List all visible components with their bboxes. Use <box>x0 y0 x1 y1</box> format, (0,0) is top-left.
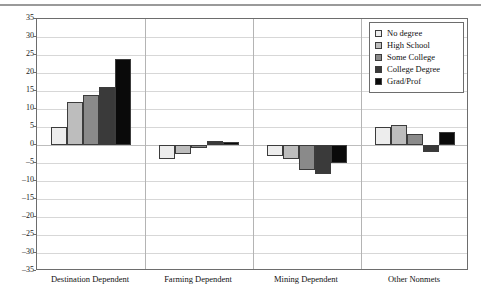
y-axis-tick-label: –25 <box>4 230 34 238</box>
legend-item-label: High School <box>387 40 430 50</box>
y-axis-tick-label: 15 <box>4 86 34 94</box>
bar <box>207 141 223 145</box>
legend-swatch-icon <box>375 42 382 49</box>
bar <box>191 145 207 148</box>
y-axis: 35302520151050–5–10–15–20–25–30–35 <box>0 18 34 270</box>
legend-item[interactable]: Some College <box>375 51 458 63</box>
legend-swatch-icon <box>375 54 382 61</box>
group-separator <box>145 19 146 269</box>
y-axis-tick-label: 35 <box>4 14 34 22</box>
bar <box>99 87 115 145</box>
bar <box>299 145 315 170</box>
bar <box>67 102 83 145</box>
legend-item-label: Some College <box>387 52 435 62</box>
y-axis-tick-mark <box>33 270 36 271</box>
bar <box>175 145 191 154</box>
legend-item-label: No degree <box>387 28 422 38</box>
gridline <box>37 181 467 182</box>
gridline <box>37 235 467 236</box>
legend-item[interactable]: High School <box>375 39 458 51</box>
bar <box>375 127 391 145</box>
bar <box>51 127 67 145</box>
legend-item[interactable]: No degree <box>375 27 458 39</box>
group-separator <box>253 19 254 269</box>
gridline <box>37 217 467 218</box>
bar <box>423 145 439 152</box>
x-axis-category-label: Farming Dependent <box>144 274 252 285</box>
legend-swatch-icon <box>375 66 382 73</box>
x-axis-category-label: Other Nonmets <box>360 274 468 285</box>
zero-line <box>37 145 467 146</box>
bar <box>267 145 283 156</box>
gridline <box>37 253 467 254</box>
bar <box>115 59 131 145</box>
legend-swatch-icon <box>375 78 382 85</box>
group-separator <box>361 19 362 269</box>
legend-swatch-icon <box>375 30 382 37</box>
bar <box>159 145 175 159</box>
y-axis-tick-label: 0 <box>4 140 34 148</box>
legend-item[interactable]: Grad/Prof <box>375 75 458 87</box>
bar <box>407 134 423 145</box>
y-axis-tick-label: 10 <box>4 104 34 112</box>
gridline <box>37 199 467 200</box>
y-axis-tick-label: 5 <box>4 122 34 130</box>
bar <box>83 95 99 145</box>
x-axis-labels: Destination DependentFarming DependentMi… <box>36 274 468 290</box>
legend-item[interactable]: College Degree <box>375 63 458 75</box>
bar <box>315 145 331 174</box>
y-axis-tick-label: 25 <box>4 50 34 58</box>
y-axis-tick-label: –5 <box>4 158 34 166</box>
bar <box>283 145 299 159</box>
chart-legend: No degreeHigh SchoolSome CollegeCollege … <box>369 22 464 93</box>
legend-item-label: Grad/Prof <box>387 76 421 86</box>
y-axis-tick-label: –30 <box>4 248 34 256</box>
y-axis-tick-label: –20 <box>4 212 34 220</box>
y-axis-tick-label: –10 <box>4 176 34 184</box>
y-axis-tick-label: 20 <box>4 68 34 76</box>
bar-chart-figure: 35302520151050–5–10–15–20–25–30–35 Desti… <box>0 0 481 299</box>
bar <box>391 125 407 145</box>
bar <box>223 142 239 145</box>
y-axis-tick-label: –35 <box>4 266 34 274</box>
y-axis-tick-label: 30 <box>4 32 34 40</box>
bar <box>439 132 455 145</box>
legend-item-label: College Degree <box>387 64 440 74</box>
x-axis-category-label: Destination Dependent <box>36 274 144 285</box>
gridline <box>37 163 467 164</box>
x-axis-category-label: Mining Dependent <box>252 274 360 285</box>
y-axis-tick-label: –15 <box>4 194 34 202</box>
bar <box>331 145 347 163</box>
